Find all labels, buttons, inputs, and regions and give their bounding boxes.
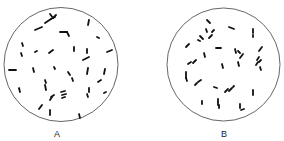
panel-label-b: B	[221, 130, 227, 139]
bacterium-rod	[87, 68, 88, 74]
bacterium-rod	[198, 80, 201, 82]
panel-label-a: A	[54, 130, 60, 139]
bacterium-rod	[62, 94, 66, 95]
bacterium-rod	[212, 30, 214, 32]
bacterium-rod	[188, 62, 191, 64]
bacterium-rod	[204, 53, 205, 57]
bacterium-rod	[193, 60, 196, 63]
bacterium-rod	[209, 35, 212, 38]
bacterium-rod	[35, 27, 42, 30]
bacterium-rod	[19, 88, 20, 92]
bacterium-rod	[45, 80, 46, 83]
bacterium-rod	[21, 53, 22, 56]
bacterium-rod	[98, 80, 101, 82]
bacterium-rod	[225, 89, 228, 92]
bacterium-rod	[107, 50, 112, 52]
bacterium-rod	[33, 68, 34, 72]
bacterium-rod	[233, 86, 234, 87]
bacterium-rod	[67, 32, 69, 36]
bacterium-rod	[186, 44, 189, 47]
bacterium-rod	[39, 105, 42, 109]
bacterium-rod	[200, 36, 203, 39]
bacterium-rod	[61, 91, 65, 92]
bacterium-rod	[222, 64, 223, 68]
bacterium-rod	[83, 57, 89, 60]
bacterium-rod	[97, 37, 99, 38]
bacterium-rod	[229, 27, 234, 29]
bacterium-rod	[238, 62, 239, 66]
bacterium-rod	[198, 40, 200, 41]
bacterium-rod	[214, 87, 217, 88]
bacterium-rod	[72, 78, 73, 81]
bacterium-rod	[68, 72, 70, 75]
microscope-fields-figure	[0, 0, 284, 141]
bacterium-rod	[257, 57, 259, 60]
bacterium-rod	[206, 29, 207, 32]
bacterium-rod	[195, 83, 197, 85]
bacterium-rod	[240, 54, 243, 58]
bacterium-rod	[45, 19, 51, 23]
microscope-field-b	[167, 8, 280, 121]
bacterium-rod	[88, 20, 89, 25]
bacterium-rod	[35, 51, 37, 52]
bacterium-rod	[104, 69, 105, 74]
bacteria-rods-b	[186, 20, 262, 110]
bacterium-rod	[186, 78, 187, 81]
bacterium-rod	[260, 67, 261, 70]
bacterium-rod	[235, 49, 236, 53]
bacterium-rod	[62, 97, 65, 98]
bacterium-rod	[259, 47, 262, 51]
microscope-field-a	[4, 8, 118, 122]
bacterium-rod	[45, 85, 46, 90]
bacterium-rod	[104, 92, 106, 93]
bacterium-rod	[54, 67, 55, 69]
bacterium-rod	[241, 109, 244, 110]
bacterium-rod	[79, 114, 80, 118]
bacterium-rod	[256, 62, 258, 65]
bacterium-rod	[207, 20, 210, 23]
bacterium-rod	[259, 60, 261, 62]
bacteria-rods-a	[9, 14, 112, 118]
bacterium-rod	[22, 43, 23, 46]
bacterium-rod	[87, 94, 88, 97]
bacterium-rod	[49, 50, 53, 53]
field-circle-a	[4, 8, 118, 122]
bacterium-rod	[229, 88, 232, 91]
field-circle-b	[167, 8, 280, 121]
bacterium-rod	[238, 51, 240, 53]
